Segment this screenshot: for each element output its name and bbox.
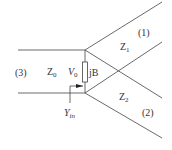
arrow-head-icon [76,84,83,88]
yin-arrow-line [70,86,83,103]
yin-label: Yin [64,107,76,120]
z1-label: Z1 [120,41,130,54]
z0-label: Z0 [47,66,57,79]
port-2-label: (2) [142,107,154,119]
t-junction-diagram: (3) (1) (2) Z0 Z1 Z2 V0 jB Yin [0,0,172,150]
port-1-label: (1) [138,27,150,39]
jb-label: jB [88,67,99,78]
z2-label: Z2 [119,91,129,104]
susceptance-element [83,62,88,82]
port-3-label: (3) [15,67,27,79]
v0-label: V0 [68,66,78,79]
